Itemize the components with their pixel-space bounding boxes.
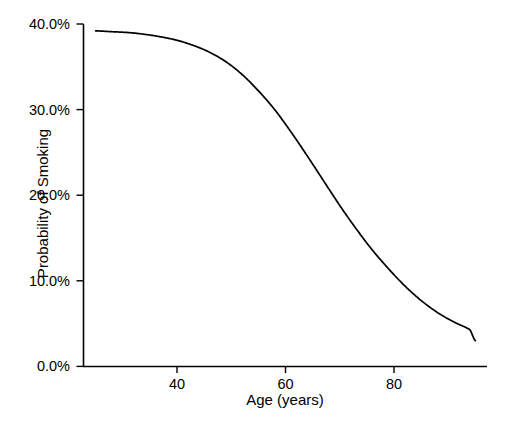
y-tick-label-0: 0.0%	[6, 359, 70, 374]
data-series-line	[96, 31, 476, 341]
x-axis-ticks	[177, 367, 394, 374]
x-tick-label-40: 40	[169, 377, 185, 392]
y-axis-title: Probability of Smoking	[34, 74, 51, 334]
chart-canvas	[0, 0, 509, 421]
x-tick-label-80: 80	[386, 377, 402, 392]
x-tick-label-60: 60	[277, 377, 293, 392]
chart-figure: 40.0% 30.0% 20.0% 10.0% 0.0% 40 60 80 Pr…	[0, 0, 509, 421]
y-tick-label-40: 40.0%	[6, 17, 70, 32]
x-axis-title: Age (years)	[83, 391, 487, 408]
y-axis-ticks	[77, 24, 84, 366]
